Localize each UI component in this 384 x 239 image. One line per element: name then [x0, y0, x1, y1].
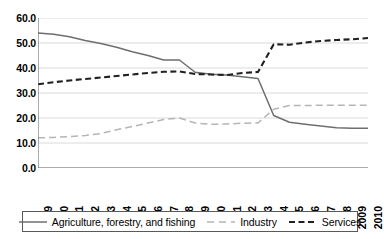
- legend-entry[interactable]: Agriculture, forestry, and fishing: [19, 216, 195, 228]
- y-axis-tick-label: 60.0: [2, 13, 36, 23]
- series-line: [38, 33, 368, 128]
- y-axis-tick-label: 10.0: [2, 138, 36, 148]
- x-axis-labels: 1989199019911992199319941995199619971998…: [38, 170, 368, 208]
- series-line: [38, 38, 368, 84]
- y-axis-tick-label: 20.0: [2, 113, 36, 123]
- legend-label: Agriculture, forestry, and fishing: [52, 216, 195, 228]
- y-axis-labels: 60.050.040.030.020.010.00.0: [0, 0, 36, 180]
- legend-swatch-line-icon: [207, 218, 235, 226]
- y-axis-tick-label: 30.0: [2, 88, 36, 98]
- legend-entry[interactable]: Services: [289, 216, 361, 228]
- plot-svg: [38, 18, 368, 168]
- legend-entry[interactable]: Industry: [207, 216, 277, 228]
- series-lines: [38, 33, 368, 138]
- legend-label: Services: [322, 216, 361, 228]
- plot-area: [38, 18, 368, 168]
- series-line: [38, 105, 368, 138]
- y-axis-tick-label: 40.0: [2, 63, 36, 73]
- chart-legend: Agriculture, forestry, and fishingIndust…: [22, 211, 358, 232]
- y-axis-tick-label: 0.0: [2, 163, 36, 173]
- x-axis-tick-label: 2010: [373, 206, 384, 229]
- y-axis-tick-label: 50.0: [2, 38, 36, 48]
- legend-label: Industry: [240, 216, 277, 228]
- legend-swatch-line-icon: [19, 218, 47, 226]
- legend-swatch-line-icon: [289, 218, 317, 226]
